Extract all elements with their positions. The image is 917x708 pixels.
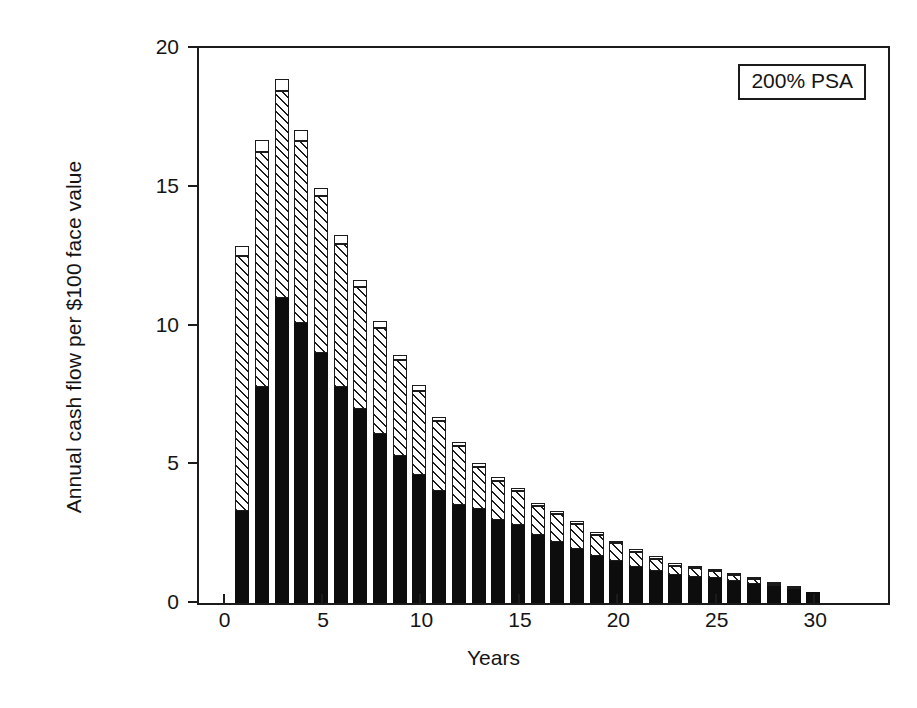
bar-segment-residual-year-22 <box>649 556 663 559</box>
bar-segment-scheduled-principal-and-interest-year-17 <box>550 514 564 542</box>
bar-segment-residual-year-5 <box>314 188 328 196</box>
bar-segment-prepayments-year-28 <box>767 586 781 603</box>
y-tick-label-15: 15 <box>156 174 179 198</box>
y-tick-5: 5 <box>188 462 199 464</box>
psa-annotation-box: 200% PSA <box>738 64 866 100</box>
plot-area: 05101520 051015202530 200% PSA <box>197 46 890 605</box>
bar-year-26 <box>727 574 741 603</box>
bar-year-5 <box>314 188 328 603</box>
bar-segment-residual-year-20 <box>609 541 623 544</box>
bar-segment-scheduled-principal-and-interest-year-15 <box>511 491 525 526</box>
bar-year-6 <box>334 235 348 603</box>
bar-segment-residual-year-18 <box>570 521 584 524</box>
bar-segment-scheduled-principal-and-interest-year-19 <box>590 535 604 556</box>
x-tick-label-10: 10 <box>410 608 433 632</box>
x-tick-label-25: 25 <box>705 608 728 632</box>
bar-segment-prepayments-year-11 <box>432 491 446 603</box>
bar-year-12 <box>452 442 466 603</box>
bar-segment-scheduled-principal-and-interest-year-11 <box>432 421 446 490</box>
bar-segment-residual-year-24 <box>688 566 702 569</box>
bar-segment-prepayments-year-5 <box>314 353 328 603</box>
bar-segment-prepayments-year-26 <box>727 581 741 603</box>
bar-year-19 <box>590 532 604 603</box>
bar-segment-scheduled-principal-and-interest-year-18 <box>570 524 584 549</box>
bar-segment-scheduled-principal-and-interest-year-24 <box>688 568 702 576</box>
bar-segment-scheduled-principal-and-interest-year-13 <box>472 467 486 509</box>
bar-year-9 <box>393 355 407 603</box>
bar-segment-prepayments-year-18 <box>570 549 584 603</box>
x-tick-label-30: 30 <box>804 608 827 632</box>
bar-segment-residual-year-13 <box>472 463 486 467</box>
bar-year-24 <box>688 566 702 603</box>
bar-segment-scheduled-principal-and-interest-year-7 <box>353 287 367 409</box>
y-tick-10: 10 <box>188 324 199 326</box>
x-tick-30: 30 <box>813 594 815 605</box>
bar-segment-residual-year-28 <box>767 582 781 584</box>
bar-segment-scheduled-principal-and-interest-year-23 <box>668 566 682 576</box>
bar-segment-scheduled-principal-and-interest-year-27 <box>747 579 761 583</box>
bar-segment-prepayments-year-23 <box>668 575 682 603</box>
bar-segment-prepayments-year-19 <box>590 556 604 603</box>
x-tick-0: 0 <box>223 594 225 605</box>
bar-segment-prepayments-year-13 <box>472 509 486 603</box>
bar-year-18 <box>570 521 584 603</box>
x-axis-title: Years <box>197 646 790 670</box>
bar-year-4 <box>294 130 308 603</box>
bar-year-27 <box>747 578 761 603</box>
bar-segment-scheduled-principal-and-interest-year-14 <box>491 481 505 520</box>
bar-segment-scheduled-principal-and-interest-year-2 <box>255 152 269 386</box>
y-axis-title: Annual cash flow per $100 face value <box>62 57 86 617</box>
bar-segment-residual-year-12 <box>452 442 466 446</box>
bar-segment-prepayments-year-16 <box>531 535 545 603</box>
psa-annotation-label: 200% PSA <box>751 69 853 92</box>
bar-segment-scheduled-principal-and-interest-year-28 <box>767 584 781 587</box>
bar-segment-residual-year-7 <box>353 280 367 287</box>
bar-group <box>199 48 888 603</box>
bar-year-3 <box>275 79 289 603</box>
bar-year-1 <box>235 246 249 603</box>
bar-segment-scheduled-principal-and-interest-year-3 <box>275 91 289 298</box>
bar-segment-scheduled-principal-and-interest-year-9 <box>393 360 407 456</box>
y-tick-20: 20 <box>188 46 199 48</box>
bar-segment-prepayments-year-15 <box>511 525 525 603</box>
bar-segment-prepayments-year-14 <box>491 520 505 603</box>
bar-segment-prepayments-year-4 <box>294 323 308 603</box>
bar-segment-scheduled-principal-and-interest-year-20 <box>609 543 623 561</box>
bar-year-16 <box>531 503 545 603</box>
x-tick-label-0: 0 <box>219 608 231 632</box>
bar-segment-residual-year-21 <box>629 549 643 552</box>
bar-year-11 <box>432 417 446 603</box>
bar-segment-scheduled-principal-and-interest-year-10 <box>412 391 426 476</box>
bar-year-22 <box>649 556 663 603</box>
bar-segment-prepayments-year-9 <box>393 456 407 603</box>
x-tick-25: 25 <box>715 594 717 605</box>
bar-year-13 <box>472 463 486 603</box>
bar-segment-prepayments-year-1 <box>235 511 249 603</box>
bar-year-2 <box>255 140 269 603</box>
bar-segment-scheduled-principal-and-interest-year-12 <box>452 446 466 504</box>
bar-segment-prepayments-year-29 <box>787 589 801 603</box>
bar-segment-prepayments-year-2 <box>255 387 269 603</box>
bar-segment-scheduled-principal-and-interest-year-26 <box>727 575 741 581</box>
bar-year-28 <box>767 582 781 603</box>
bar-segment-scheduled-principal-and-interest-year-25 <box>708 571 722 578</box>
bar-segment-residual-year-15 <box>511 488 525 491</box>
bar-segment-prepayments-year-24 <box>688 577 702 603</box>
bar-segment-prepayments-year-7 <box>353 409 367 603</box>
bar-segment-residual-year-11 <box>432 417 446 421</box>
bar-segment-prepayments-year-21 <box>629 567 643 603</box>
y-tick-label-10: 10 <box>156 313 179 337</box>
bar-segment-residual-year-6 <box>334 235 348 243</box>
bar-segment-scheduled-principal-and-interest-year-1 <box>235 256 249 511</box>
bar-segment-residual-year-16 <box>531 503 545 506</box>
x-tick-20: 20 <box>616 594 618 605</box>
bar-year-8 <box>373 321 387 603</box>
bar-segment-scheduled-principal-and-interest-year-8 <box>373 328 387 433</box>
bar-segment-scheduled-principal-and-interest-year-22 <box>649 559 663 571</box>
x-tick-5: 5 <box>321 594 323 605</box>
bar-segment-prepayments-year-27 <box>747 584 761 603</box>
bar-segment-residual-year-4 <box>294 130 308 141</box>
chart-figure: Annual cash flow per $100 face value Yea… <box>0 0 917 708</box>
bar-segment-residual-year-19 <box>590 532 604 535</box>
bar-segment-residual-year-2 <box>255 140 269 152</box>
